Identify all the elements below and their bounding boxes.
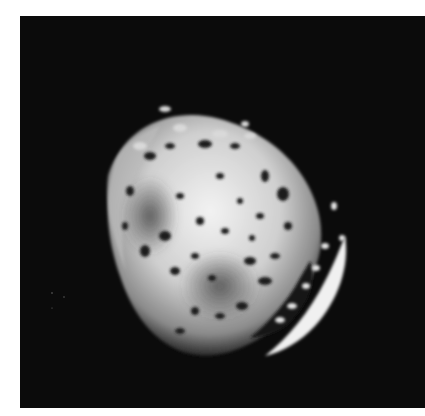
moon-photograph bbox=[20, 16, 425, 408]
moon-illustration bbox=[20, 16, 425, 408]
